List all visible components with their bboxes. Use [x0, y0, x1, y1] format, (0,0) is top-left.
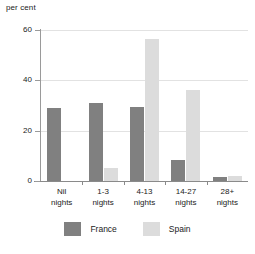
plot-area [41, 30, 248, 181]
bar-spain [104, 168, 118, 181]
x-axis-category-labels: Nilnights1-3nights4-13nights14-27nights2… [41, 186, 248, 208]
category-label-line2: nights [207, 197, 248, 208]
legend-swatch-spain [143, 222, 160, 236]
y-tick-mark-0 [35, 181, 40, 182]
y-axis-unit-caption: per cent [6, 3, 36, 12]
x-tick-mark [82, 181, 83, 185]
x-tick-mark [124, 181, 125, 185]
bar-groups [41, 30, 248, 181]
y-tick-label-60: 60 [0, 25, 32, 34]
x-axis-category-label: 28+nights [207, 186, 248, 208]
legend-swatch-france [64, 222, 81, 236]
y-tick-label-20: 20 [0, 126, 32, 135]
x-axis-category-label: 1-3nights [82, 186, 123, 208]
bar-spain [186, 90, 200, 181]
y-tick-mark-20 [35, 131, 40, 132]
category-label-line2: nights [82, 197, 123, 208]
category-label-line1: 4-13 [137, 187, 153, 196]
x-axis-category-label: Nilnights [41, 186, 82, 208]
category-label-line2: nights [41, 197, 82, 208]
bar-group [165, 30, 206, 181]
legend-item-france[interactable]: France [64, 222, 116, 236]
legend-item-spain[interactable]: Spain [143, 222, 191, 236]
bar-group [41, 30, 82, 181]
y-tick-mark-60 [35, 30, 40, 31]
bar-chart: per cent 0204060 Nilnights1-3nights4-13n… [0, 0, 255, 254]
legend-label-spain: Spain [169, 224, 191, 234]
x-axis-category-label: 14-27nights [165, 186, 206, 208]
y-tick-mark-40 [35, 80, 40, 81]
bar-france [171, 160, 185, 181]
category-label-line1: 14-27 [176, 187, 196, 196]
category-label-line1: Nil [57, 187, 66, 196]
bar-france [47, 108, 61, 181]
x-tick-mark [165, 181, 166, 185]
category-label-line2: nights [124, 197, 165, 208]
bar-group [82, 30, 123, 181]
x-tick-mark [207, 181, 208, 185]
x-axis-ticks [41, 181, 248, 185]
bar-france [130, 107, 144, 181]
bar-group [124, 30, 165, 181]
bar-spain [145, 39, 159, 181]
category-label-line1: 1-3 [97, 187, 109, 196]
category-label-line2: nights [165, 197, 206, 208]
x-axis-category-label: 4-13nights [124, 186, 165, 208]
bar-group [207, 30, 248, 181]
y-tick-label-0: 0 [0, 176, 32, 185]
legend-label-france: France [90, 224, 116, 234]
bar-france [89, 103, 103, 181]
chart-legend: FranceSpain [0, 222, 255, 236]
category-label-line1: 28+ [221, 187, 235, 196]
y-tick-label-40: 40 [0, 75, 32, 84]
